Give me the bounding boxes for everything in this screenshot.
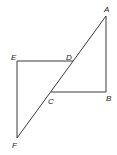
label-c: C bbox=[48, 97, 54, 106]
label-f: F bbox=[12, 141, 18, 150]
label-b: B bbox=[106, 94, 112, 103]
label-d: D bbox=[66, 53, 72, 62]
label-e: E bbox=[11, 53, 17, 62]
geometry-figure: A B C D E F bbox=[0, 0, 117, 155]
label-a: A bbox=[103, 5, 109, 14]
segment-af bbox=[17, 16, 106, 138]
